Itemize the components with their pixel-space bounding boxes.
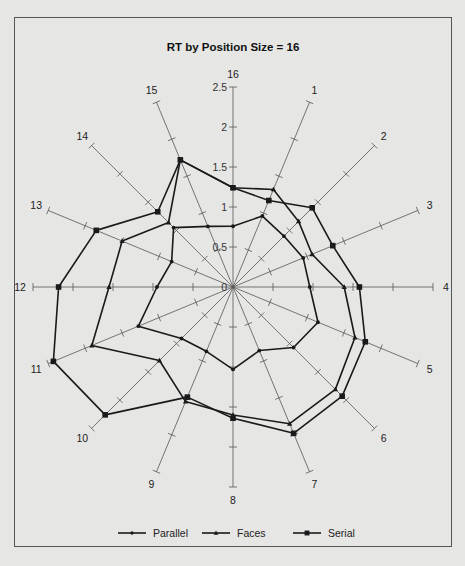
axis-line: [233, 287, 310, 472]
square-marker: [178, 157, 184, 163]
axis-tick: [379, 222, 382, 229]
triangle-marker: [106, 284, 111, 289]
axis-tick: [275, 396, 282, 399]
axis-tick: [183, 175, 190, 178]
axis-line: [233, 210, 418, 287]
axis-label: 4: [443, 281, 449, 293]
circle-marker: [170, 260, 174, 264]
series-parallel: [136, 214, 319, 371]
axis-tick: [275, 175, 282, 178]
axis-label: 10: [77, 432, 89, 444]
axis-line: [156, 287, 233, 472]
axis-label: 11: [31, 363, 42, 375]
radar-axes: 1612345678910111213141500.511.522.5: [14, 68, 449, 506]
axis-tick: [158, 314, 161, 321]
circle-marker: [180, 337, 184, 341]
chart-title: RT by Position Size = 16: [167, 41, 300, 53]
axis-tick: [153, 470, 160, 473]
axis-label: 3: [427, 199, 433, 211]
axis-tick: [379, 345, 382, 352]
axis-label: 6: [381, 432, 387, 444]
axis-label: 8: [230, 494, 236, 506]
axis-tick: [342, 329, 345, 336]
circle-marker: [231, 367, 235, 371]
axis-line: [233, 287, 374, 428]
axis-tick: [158, 253, 161, 260]
circle-marker: [206, 224, 210, 228]
circle-marker: [260, 214, 264, 218]
square-marker: [266, 198, 272, 204]
circle-marker: [316, 320, 320, 324]
axis-tick: [260, 212, 267, 215]
axis-tick: [305, 314, 308, 321]
legend-label-parallel: Parallel: [153, 527, 188, 539]
radial-tick-label: 2: [221, 121, 227, 133]
circle-marker: [308, 285, 312, 289]
axis-tick: [84, 345, 87, 352]
square-marker: [51, 359, 57, 365]
axis-line: [92, 287, 233, 428]
axis-tick: [199, 359, 206, 362]
axis-tick: [214, 322, 221, 325]
radial-tick-label: 0.5: [212, 241, 227, 253]
axis-label: 2: [381, 130, 387, 142]
square-marker: [339, 393, 345, 399]
square-marker: [230, 185, 236, 191]
square-marker: [309, 205, 315, 211]
radial-tick-label: 1.5: [212, 161, 227, 173]
circle-marker: [136, 324, 140, 328]
axis-label: 13: [30, 199, 42, 211]
axis-line: [48, 210, 233, 287]
axis-tick: [245, 249, 252, 252]
radial-tick-label: 1: [221, 201, 227, 213]
axis-tick: [195, 299, 198, 306]
square-marker: [102, 412, 108, 418]
axis-label: 15: [146, 84, 158, 96]
circle-marker: [204, 349, 208, 353]
axis-tick: [268, 299, 271, 306]
axis-tick: [199, 212, 206, 215]
axis-tick: [121, 329, 124, 336]
axis-tick: [291, 138, 298, 141]
axis-label: 9: [149, 478, 155, 490]
circle-marker: [257, 349, 261, 353]
circle-marker: [155, 285, 159, 289]
radial-tick-label: 2.5: [212, 81, 227, 93]
square-marker: [185, 394, 191, 400]
square-marker: [56, 284, 62, 290]
legend-label-serial: Serial: [328, 527, 355, 539]
circle-marker: [231, 224, 235, 228]
axis-label: 14: [77, 130, 89, 142]
axis-tick: [305, 253, 308, 260]
axis-line: [233, 146, 374, 287]
axis-tick: [260, 359, 267, 362]
square-marker: [291, 431, 297, 437]
legend: ParallelFacesSerial: [118, 527, 355, 539]
axis-line: [233, 287, 418, 364]
axis-tick: [306, 470, 313, 473]
axis-tick: [268, 268, 271, 275]
axis-label: 5: [427, 363, 433, 375]
square-marker: [357, 284, 363, 290]
circle-marker: [130, 531, 133, 534]
square-marker: [330, 243, 336, 249]
square-marker: [155, 209, 161, 215]
axis-label: 12: [14, 281, 26, 293]
axis-tick: [245, 322, 252, 325]
axis-label: 7: [312, 478, 318, 490]
axis-tick: [416, 207, 419, 214]
square-marker: [93, 228, 99, 234]
square-marker: [230, 415, 236, 421]
axis-tick: [195, 268, 198, 275]
axis-tick: [47, 360, 50, 367]
axis-tick: [168, 433, 175, 436]
axis-tick: [153, 101, 160, 104]
circle-marker: [292, 346, 296, 350]
axis-tick: [416, 360, 419, 367]
axis-tick: [168, 138, 175, 141]
radar-chart: RT by Position Size = 16 161234567891011…: [0, 0, 465, 566]
axis-tick: [342, 237, 345, 244]
square-marker: [305, 531, 310, 536]
axis-tick: [84, 222, 87, 229]
axis-label: 1: [312, 84, 318, 96]
